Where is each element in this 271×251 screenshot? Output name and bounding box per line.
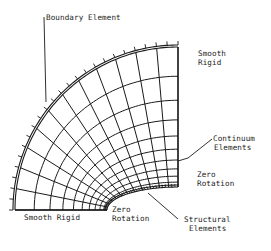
boundary-tick	[94, 64, 96, 68]
structural-elements-leader	[148, 193, 178, 219]
smooth-rigid-right-label-line2: Rigid	[198, 59, 221, 68]
boundary-tick	[18, 156, 22, 157]
boundary-tick	[44, 107, 47, 110]
continuum-mesh-grid	[15, 47, 178, 210]
boundary-tick	[59, 91, 62, 94]
boundary-tick	[15, 166, 19, 167]
mesh-diagram: Boundary Element Smooth Rigid Continuum …	[0, 0, 271, 251]
continuum-elements-label-line2: Elements	[214, 144, 251, 153]
boundary-arc-line	[15, 47, 178, 210]
leader-lines	[44, 17, 212, 219]
structural-tick	[105, 206, 108, 207]
mesh-ring	[50, 100, 178, 210]
boundary-tick	[51, 99, 54, 102]
boundary-tick	[145, 44, 146, 48]
zero-rotation-right-label-line2: Rotation	[197, 180, 234, 189]
boundary-tick	[156, 42, 157, 46]
boundary-tick	[26, 135, 30, 137]
mesh-spoke	[157, 48, 169, 187]
boundary-tick	[10, 188, 14, 189]
boundary-tick	[67, 83, 70, 86]
boundary-tick	[134, 47, 135, 51]
continuum-elements-leader	[178, 139, 212, 161]
boundary-tick	[113, 54, 115, 58]
boundary-tick	[75, 76, 78, 79]
mesh-spoke	[37, 129, 117, 199]
boundary-tick	[38, 116, 41, 118]
boundary-tick	[103, 58, 105, 62]
mesh-spoke	[116, 59, 151, 188]
boundary-tick	[12, 177, 16, 178]
boundary-element-leader	[44, 17, 46, 102]
structural-elements-label-line2: Elements	[189, 225, 226, 234]
smooth-rigid-bottom-label: Smooth Rigid	[24, 214, 80, 223]
boundary-tick	[32, 126, 35, 128]
boundary-tick	[124, 50, 125, 54]
mesh-spoke	[136, 53, 160, 188]
zero-rotation-bottom-label-line2: Rotation	[112, 215, 149, 224]
structural-tick	[165, 184, 166, 187]
boundary-element-arc	[9, 41, 178, 210]
boundary-tick	[84, 70, 86, 73]
boundary-element-label: Boundary Element	[46, 14, 121, 23]
boundary-tick	[22, 145, 26, 147]
